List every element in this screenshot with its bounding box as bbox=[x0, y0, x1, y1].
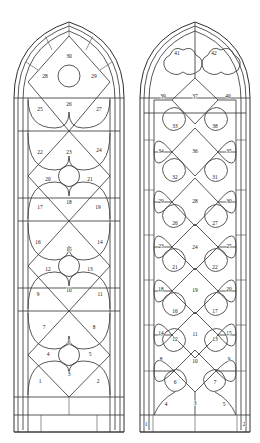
panel-number: 42 bbox=[211, 50, 217, 56]
left-window: 1234567891011121314151617181920212223242… bbox=[14, 22, 124, 432]
panel-number: 14 bbox=[97, 239, 103, 245]
panel-number: 3 bbox=[68, 371, 71, 377]
panel-number: 13 bbox=[87, 266, 93, 272]
left-a-lobe-24 bbox=[69, 133, 110, 170]
right-head-quatrefoil-41 bbox=[164, 48, 203, 74]
panel-number: 9 bbox=[228, 356, 231, 362]
left-c-lobe-1 bbox=[28, 361, 69, 395]
left-arch-rib-c bbox=[26, 62, 38, 70]
panel-number: 15 bbox=[226, 330, 232, 336]
panel-number: 33 bbox=[172, 123, 178, 129]
panel-number: 23 bbox=[66, 149, 72, 155]
left-arch-rib-d bbox=[100, 62, 112, 70]
panel-number: 11 bbox=[97, 291, 102, 297]
panel-number: 8 bbox=[160, 356, 163, 362]
right-arch-inner-band-2 bbox=[149, 31, 241, 430]
right-window: 1234567891011121314151617181920212223242… bbox=[140, 22, 250, 432]
left-a-lobe-19 bbox=[69, 182, 110, 219]
left-a-lobe-22 bbox=[28, 133, 69, 170]
panel-number: 6 bbox=[68, 339, 71, 345]
panel-number: 4 bbox=[47, 351, 50, 357]
right-head-quatrefoil-42 bbox=[202, 48, 241, 74]
panel-number: 4 bbox=[165, 401, 168, 407]
panel-number: 10 bbox=[66, 287, 72, 293]
panel-number: 31 bbox=[212, 174, 218, 180]
panel-number: 9 bbox=[37, 291, 40, 297]
panel-number: 24 bbox=[96, 147, 102, 153]
panel-number: 29 bbox=[158, 198, 164, 204]
panel-number: 22 bbox=[212, 264, 218, 270]
panel-number: 23 bbox=[158, 243, 164, 249]
panel-number: 28 bbox=[42, 73, 48, 79]
panel-number: 17 bbox=[37, 204, 43, 210]
panel-number: 21 bbox=[172, 264, 178, 270]
panel-number: 38 bbox=[212, 123, 218, 129]
panel-number: 34 bbox=[158, 148, 164, 154]
panel-number: 21 bbox=[87, 176, 93, 182]
panel-number: 2 bbox=[243, 421, 246, 427]
left-b-lobe-9 bbox=[28, 272, 69, 309]
right-head-diamond-37 bbox=[172, 78, 218, 124]
panel-number: 5 bbox=[223, 401, 226, 407]
panel-number: 7 bbox=[214, 379, 217, 385]
panel-number: 19 bbox=[95, 204, 101, 210]
panel-number: 16 bbox=[172, 308, 178, 314]
left-c-lobe-2 bbox=[69, 361, 110, 395]
panel-number: 37 bbox=[192, 93, 198, 99]
panel-number: 18 bbox=[158, 286, 164, 292]
panel-number: 41 bbox=[174, 50, 180, 56]
left-a-lobe-17 bbox=[28, 182, 69, 219]
panel-number: 11 bbox=[192, 331, 197, 337]
panel-number: 12 bbox=[172, 336, 178, 342]
panel-number: 27 bbox=[212, 220, 218, 226]
panel-number: 40 bbox=[225, 93, 231, 99]
panel-number: 26 bbox=[172, 220, 178, 226]
diagram-canvas: 1234567891011121314151617181920212223242… bbox=[0, 0, 260, 443]
panel-number: 6 bbox=[174, 379, 177, 385]
left-b-lobe-11 bbox=[69, 272, 110, 309]
panel-number: 5 bbox=[89, 351, 92, 357]
panel-number: 30 bbox=[226, 198, 232, 204]
left-c-lobe-7 bbox=[28, 313, 69, 349]
window-tracery-svg: 1234567891011121314151617181920212223242… bbox=[0, 0, 260, 443]
panel-number: 16 bbox=[35, 239, 41, 245]
panel-number: 13 bbox=[212, 336, 218, 342]
panel-number: 12 bbox=[45, 266, 51, 272]
left-b-lobe-14 bbox=[69, 223, 110, 260]
left-head-diag-4 bbox=[69, 82, 110, 131]
panel-number: 24 bbox=[192, 244, 198, 250]
panel-number: 36 bbox=[192, 148, 198, 154]
panel-number: 7 bbox=[43, 324, 46, 330]
panel-number: 19 bbox=[192, 287, 198, 293]
panel-number: 15 bbox=[66, 246, 72, 252]
right-window-outline bbox=[140, 22, 250, 432]
panel-number: 32 bbox=[172, 174, 178, 180]
left-tier-b bbox=[28, 221, 110, 311]
panel-number: 25 bbox=[226, 243, 232, 249]
panel-number: 22 bbox=[37, 149, 43, 155]
panel-number: 3 bbox=[194, 400, 197, 406]
panel-number: 26 bbox=[66, 101, 72, 107]
panel-number: 29 bbox=[91, 73, 97, 79]
panel-number: 10 bbox=[192, 358, 198, 364]
panel-number: 17 bbox=[212, 308, 218, 314]
panel-number: 8 bbox=[93, 324, 96, 330]
panel-number: 1 bbox=[145, 421, 148, 427]
panel-number: 28 bbox=[192, 198, 198, 204]
left-head-roundel bbox=[58, 65, 80, 87]
panel-number: 20 bbox=[226, 286, 232, 292]
panel-number: 27 bbox=[96, 106, 102, 112]
right-edge-5 bbox=[215, 392, 236, 415]
panel-number: 18 bbox=[66, 199, 72, 205]
panel-number: 2 bbox=[97, 378, 100, 384]
left-head-diag-3 bbox=[28, 82, 69, 131]
left-c-lobe-8 bbox=[69, 313, 110, 349]
panel-number: 14 bbox=[158, 330, 164, 336]
panel-number: 25 bbox=[37, 106, 43, 112]
panel-number: 1 bbox=[39, 378, 42, 384]
panel-number: 30 bbox=[66, 53, 72, 59]
panel-number: 20 bbox=[45, 176, 51, 182]
left-arch-head-tracery bbox=[28, 36, 110, 131]
left-b-lobe-16 bbox=[28, 223, 69, 260]
panel-number: 39 bbox=[160, 93, 166, 99]
